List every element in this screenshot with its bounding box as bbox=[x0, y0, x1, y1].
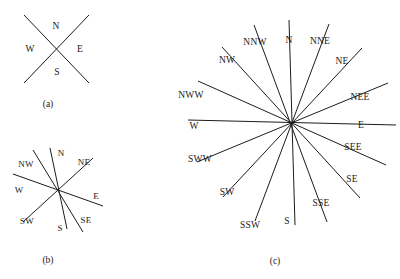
direction-label-n: N bbox=[285, 36, 292, 46]
direction-label-nw: NW bbox=[18, 160, 33, 169]
direction-label-nww: NWW bbox=[178, 91, 203, 101]
rose-axis-line bbox=[13, 174, 103, 206]
direction-label-w: W bbox=[15, 186, 24, 195]
direction-label-nw: NW bbox=[219, 56, 235, 66]
direction-label-sw: SW bbox=[220, 188, 235, 198]
direction-label-s: S bbox=[284, 217, 289, 227]
direction-label-sww: SWW bbox=[188, 155, 212, 165]
direction-label-s: S bbox=[57, 224, 62, 233]
direction-label-ssw: SSW bbox=[240, 221, 260, 231]
direction-label-n: N bbox=[52, 22, 59, 32]
direction-label-s: S bbox=[54, 68, 59, 78]
direction-label-ne: NE bbox=[335, 57, 348, 67]
direction-label-nnw: NNW bbox=[243, 38, 266, 48]
direction-label-sw: SW bbox=[20, 217, 34, 226]
direction-label-e: E bbox=[358, 121, 364, 131]
direction-label-w: W bbox=[189, 122, 198, 132]
direction-label-ne: NE bbox=[78, 158, 90, 167]
panel-caption-a: (a) bbox=[43, 100, 54, 110]
direction-label-w: W bbox=[25, 45, 34, 55]
direction-label-e: E bbox=[77, 45, 83, 55]
panel-caption-b: (b) bbox=[42, 256, 53, 266]
direction-label-n: N bbox=[58, 149, 65, 158]
direction-label-se: SE bbox=[81, 216, 92, 225]
panel-caption-c: (c) bbox=[270, 257, 281, 267]
compass-rose-svg bbox=[0, 0, 400, 279]
direction-label-se: SE bbox=[346, 175, 358, 185]
rose-axis-line bbox=[33, 150, 83, 232]
direction-label-see: SEE bbox=[344, 143, 362, 153]
figure-canvas bbox=[0, 0, 400, 279]
direction-label-nee: NEE bbox=[350, 93, 369, 103]
direction-label-sse: SSE bbox=[313, 199, 330, 209]
direction-label-e: E bbox=[93, 192, 99, 201]
direction-label-nne: NNE bbox=[310, 37, 330, 47]
